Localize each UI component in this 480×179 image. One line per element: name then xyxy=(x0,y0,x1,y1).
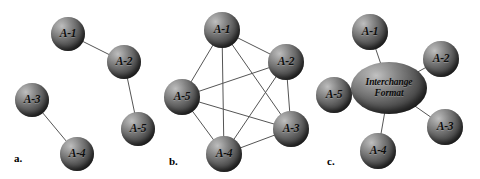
node-label: A-3 xyxy=(437,121,454,133)
node-a-5[interactable]: A-5 xyxy=(164,79,200,115)
node-a-3[interactable]: A-3 xyxy=(15,83,49,117)
hub-node-interchange-format[interactable]: InterchangeFormat xyxy=(351,62,427,114)
panel-c-hub-and-spoke: InterchangeFormatA-1A-2A-3A-4A-5 c. xyxy=(320,0,480,179)
network-topology-figure: A-1A-2A-3A-4A-5 a. A-1A-2A-3A-4A-5 b. In… xyxy=(0,0,480,179)
node-label: A-4 xyxy=(69,148,86,160)
node-label: A-5 xyxy=(174,91,191,103)
node-label: A-2 xyxy=(278,56,295,68)
node-label: A-4 xyxy=(216,148,233,160)
hub-label-line-1: Interchange xyxy=(366,77,413,88)
node-label: A-1 xyxy=(60,28,77,40)
panel-b-full-mesh: A-1A-2A-3A-4A-5 b. xyxy=(160,0,320,179)
node-a-5[interactable]: A-5 xyxy=(316,77,352,113)
panel-c-nodes: InterchangeFormatA-1A-2A-3A-4A-5 xyxy=(320,0,480,179)
node-a-2[interactable]: A-2 xyxy=(107,45,141,79)
node-label: A-2 xyxy=(116,56,133,68)
node-label: A-1 xyxy=(214,24,231,36)
node-a-2[interactable]: A-2 xyxy=(423,41,459,77)
node-a-4[interactable]: A-4 xyxy=(60,137,94,171)
panel-b-caption: b. xyxy=(169,155,178,167)
node-a-1[interactable]: A-1 xyxy=(51,17,85,51)
node-label: A-3 xyxy=(283,123,300,135)
node-a-4[interactable]: A-4 xyxy=(360,133,396,169)
node-a-2[interactable]: A-2 xyxy=(268,44,304,80)
node-label: A-5 xyxy=(326,89,343,101)
panel-a-point-to-point: A-1A-2A-3A-4A-5 a. xyxy=(0,0,160,179)
hub-label-line-2: Format xyxy=(375,88,404,99)
panel-b-nodes: A-1A-2A-3A-4A-5 xyxy=(160,0,320,179)
node-label: A-5 xyxy=(130,123,147,135)
panel-c-caption: c. xyxy=(327,155,335,167)
node-a-4[interactable]: A-4 xyxy=(206,136,242,172)
node-a-5[interactable]: A-5 xyxy=(121,112,155,146)
panel-a-caption: a. xyxy=(14,152,22,164)
node-a-1[interactable]: A-1 xyxy=(204,12,240,48)
node-a-1[interactable]: A-1 xyxy=(352,14,388,50)
node-label: A-3 xyxy=(24,94,41,106)
node-a-3[interactable]: A-3 xyxy=(427,109,463,145)
node-a-3[interactable]: A-3 xyxy=(273,111,309,147)
node-label: A-1 xyxy=(362,26,379,38)
node-label: A-2 xyxy=(433,53,450,65)
panel-a-nodes: A-1A-2A-3A-4A-5 xyxy=(0,0,160,179)
node-label: A-4 xyxy=(370,145,387,157)
